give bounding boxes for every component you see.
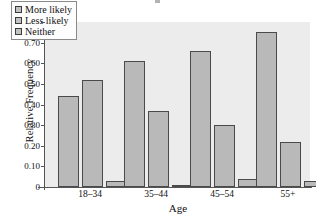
legend-item: Neither xyxy=(15,26,72,37)
bar xyxy=(304,181,316,187)
x-tick-label: 55+ xyxy=(253,189,316,199)
top-edge-artifact xyxy=(155,0,160,3)
bar-group xyxy=(190,22,256,187)
legend-label: Neither xyxy=(25,26,55,37)
legend-label: Less likely xyxy=(25,15,69,26)
y-tick-mark xyxy=(41,146,45,147)
legend-swatch-icon xyxy=(15,28,22,35)
x-tick-label: 35–44 xyxy=(121,189,191,199)
y-tick-label: 0.20 xyxy=(10,141,40,150)
legend-item: Less likely xyxy=(15,15,72,26)
y-tick-mark xyxy=(41,187,45,188)
bar-group xyxy=(124,22,190,187)
bar xyxy=(148,111,169,187)
x-tick-label: 45–54 xyxy=(187,189,257,199)
y-tick-label: 0.10 xyxy=(10,162,40,171)
y-tick-mark xyxy=(41,84,45,85)
bar xyxy=(256,32,277,187)
y-tick-mark xyxy=(41,43,45,44)
y-tick-label: 0.50 xyxy=(10,79,40,88)
x-tick-label: 18–34 xyxy=(55,189,125,199)
y-tick-label: 0.30 xyxy=(10,121,40,130)
legend-swatch-icon xyxy=(15,17,22,24)
y-tick-label: 0 xyxy=(10,183,40,192)
plot-area xyxy=(45,22,310,187)
y-tick-mark xyxy=(41,105,45,106)
legend-item: More likely xyxy=(15,4,72,15)
bar-chart-figure: Relative Frequency 0.800.700.600.500.400… xyxy=(0,0,316,221)
y-tick-mark xyxy=(41,125,45,126)
y-tick-label: 0.40 xyxy=(10,100,40,109)
x-axis-title: Age xyxy=(40,202,316,214)
bar xyxy=(82,80,103,187)
bar xyxy=(190,51,211,187)
legend: More likelyLess likelyNeither xyxy=(11,1,77,40)
y-tick-mark xyxy=(41,166,45,167)
bar xyxy=(58,96,79,187)
legend-label: More likely xyxy=(25,4,72,15)
bar xyxy=(280,142,301,187)
bar-group xyxy=(58,22,124,187)
legend-swatch-icon xyxy=(15,6,22,13)
bar xyxy=(124,61,145,187)
y-tick-mark xyxy=(41,63,45,64)
y-tick-mark xyxy=(41,22,45,23)
y-tick-label: 0.60 xyxy=(10,59,40,68)
bar xyxy=(214,125,235,187)
bar-group xyxy=(256,22,316,187)
